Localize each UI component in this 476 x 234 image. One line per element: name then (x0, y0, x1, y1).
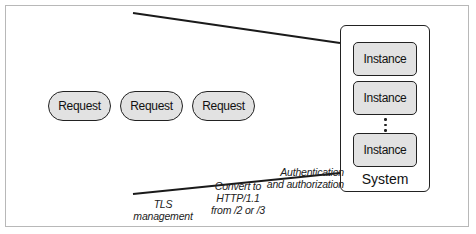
request-label: Request (58, 99, 101, 113)
note-line: Authentication (262, 166, 344, 178)
instance-label: Instance (364, 143, 407, 157)
note-line: TLS (128, 198, 198, 210)
note-line: management (128, 210, 198, 222)
note-line: from /2 or /3 (203, 204, 273, 216)
instance-node-1: Instance (353, 42, 417, 76)
request-label: Request (130, 99, 173, 113)
diagram-canvas: Request Request Request Instance Instanc… (0, 0, 476, 234)
system-label: System (341, 171, 429, 187)
note-line: HTTP/1.1 (203, 192, 273, 204)
instance-node-2: Instance (353, 81, 417, 115)
instance-label: Instance (364, 91, 407, 105)
stage-tls-note: TLS management (128, 198, 198, 222)
funnel-top-line (133, 13, 340, 43)
note-line: and authorization (262, 178, 344, 190)
request-node-2: Request (120, 91, 183, 121)
stage-auth-note: Authentication and authorization (262, 166, 344, 190)
request-label: Request (202, 99, 245, 113)
system-box: Instance Instance Instance System (340, 25, 430, 192)
request-node-3: Request (192, 91, 255, 121)
instance-node-3: Instance (353, 133, 417, 167)
request-node-1: Request (48, 91, 111, 121)
instance-label: Instance (364, 52, 407, 66)
